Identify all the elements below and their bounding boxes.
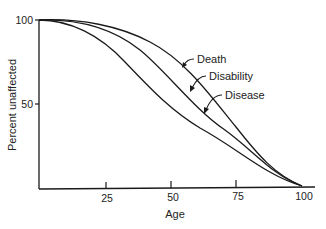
disease-arrow <box>206 95 222 110</box>
disease-label: Disease <box>225 89 265 101</box>
x-axis <box>39 187 315 189</box>
x-tick-label-100: 100 <box>295 190 313 202</box>
x-tick-label-50: 50 <box>167 191 179 203</box>
y-tick-label-100: 100 <box>15 14 33 26</box>
survival-curves-chart: 100 50 25 50 75 100 Age Percent unaffect… <box>0 0 326 229</box>
disability-curve <box>39 20 302 186</box>
y-tick-label-50: 50 <box>21 98 33 110</box>
disability-label: Disability <box>209 70 254 82</box>
x-tick-label-25: 25 <box>101 192 113 204</box>
death-label: Death <box>197 53 226 65</box>
x-tick-label-75: 75 <box>232 190 244 202</box>
x-axis-label: Age <box>165 208 185 220</box>
disease-arrowhead <box>204 107 209 114</box>
y-axis-label: Percent unaffected <box>6 59 18 151</box>
